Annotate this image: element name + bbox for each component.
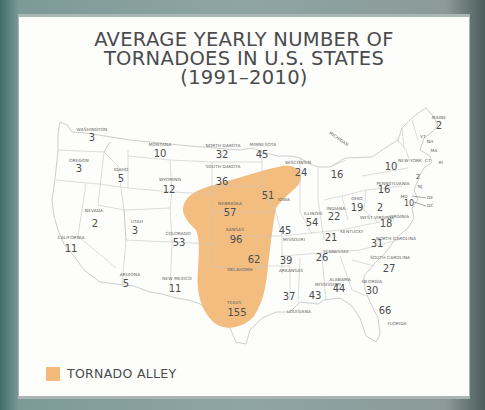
label-wyoming-value: 12 [163, 184, 176, 195]
label-missouri-value: 45 [279, 225, 292, 236]
label-north-carolina-name: NORTH CAROLINA [376, 236, 416, 241]
label-minnesota-name: MINNESOTA [250, 142, 276, 147]
label-wyoming-name: WYOMING [159, 177, 181, 182]
label-michigan-value: 16 [331, 169, 344, 180]
label-south-dakota-name: SOUTH DAKOTA [205, 164, 240, 169]
us-map: WASHINGTON 3 OREGON 3 IDAHO 5 MONTANA 10… [19, 17, 469, 396]
label-illinois-value: 54 [306, 217, 319, 228]
label-arizona-name: ARIZONA [120, 272, 140, 277]
label-montana-name: MONTANA [149, 142, 171, 147]
label-oregon-value: 3 [76, 163, 82, 174]
label-nevada-value: 2 [92, 218, 98, 229]
label-south-dakota-value: 36 [216, 176, 229, 187]
label-west-virginia-name: WEST VIRGINIA [360, 215, 394, 220]
label-new-jersey-value: 2 [416, 173, 420, 181]
label-indiana-value: 22 [328, 211, 341, 222]
label-missouri-name: MISSOURI [283, 237, 305, 242]
label-nebraska-value: 57 [224, 207, 237, 218]
label-iowa-name: IOWA [278, 197, 290, 202]
label-new-mexico-value: 11 [169, 283, 182, 294]
label-new-jersey-name: NJ [418, 184, 423, 189]
label-maine-value: 2 [436, 120, 442, 131]
label-utah-name: UTAH [131, 219, 143, 224]
label-florida-value: 66 [379, 305, 392, 316]
label-maryland-value: 10 [404, 199, 414, 208]
label-washington-value: 3 [89, 132, 95, 143]
label-louisiana-name: LOUISIANA [287, 309, 311, 314]
label-texas-name: TEXAS [226, 300, 242, 305]
label-michigan-name: MICHIGAN [328, 130, 350, 147]
label-kansas-name: KANSAS [226, 227, 244, 232]
label-colorado-name: COLORADO [165, 231, 191, 236]
label-louisiana-value: 37 [283, 291, 296, 302]
label-south-carolina-name: SOUTH CAROLINA [370, 255, 410, 260]
label-south-carolina-value: 27 [383, 263, 396, 274]
label-ohio-value: 19 [351, 202, 364, 213]
label-georgia-name: GEORGIA [362, 279, 383, 284]
map-card: AVERAGE YEARLY NUMBER OF TORNADOES IN U.… [19, 17, 469, 396]
label-oklahoma-value: 62 [248, 254, 261, 265]
label-idaho-name: IDAHO [114, 167, 129, 172]
label-minnesota-value: 45 [256, 149, 269, 160]
label-georgia-value: 30 [366, 285, 379, 296]
label-idaho-value: 5 [118, 173, 124, 184]
label-new-hampshire-name: NH [427, 139, 434, 144]
label-colorado-value: 53 [173, 237, 186, 248]
label-pennsylvania-value: 16 [378, 184, 391, 195]
label-alabama-value: 44 [333, 283, 346, 294]
label-massachusetts-name: MA [431, 148, 438, 153]
label-kentucky-name: KENTUCKY [340, 229, 364, 234]
label-california-name: CALIFORNIA [58, 235, 85, 240]
legend: TORNADO ALLEY [46, 366, 176, 381]
label-oklahoma-name: OKLAHOMA [227, 267, 253, 272]
label-rhode-island-name: RI [439, 160, 443, 165]
label-kansas-value: 96 [230, 234, 243, 245]
label-kentucky-value: 21 [325, 232, 338, 243]
label-montana-value: 10 [154, 148, 167, 159]
label-nebraska-name: NEBRASKA [218, 201, 242, 206]
label-new-mexico-name: NEW MEXICO [162, 276, 192, 281]
label-dc-name: DC [427, 203, 434, 208]
label-utah-value: 3 [132, 225, 138, 236]
label-arizona-value: 5 [123, 278, 129, 289]
label-north-dakota-name: NORTH DAKOTA [205, 143, 240, 148]
label-alabama-name: ALABAMA [329, 277, 351, 282]
tornado-alley-swatch [46, 367, 60, 381]
label-wisconsin-value: 24 [295, 167, 308, 178]
label-mississippi-value: 43 [309, 290, 322, 301]
label-nevada-name: NEVADA [85, 208, 103, 213]
label-california-value: 11 [65, 243, 78, 254]
label-connecticut-name: CT [425, 158, 431, 163]
legend-label: TORNADO ALLEY [67, 366, 176, 381]
label-new-york-value: 10 [385, 161, 398, 172]
label-north-dakota-value: 32 [216, 149, 229, 160]
label-wisconsin-name: WISCONSIN [285, 160, 311, 165]
label-arkansas-name: ARKANSAS [279, 268, 303, 273]
label-ohio-name: OHIO [351, 196, 363, 201]
label-new-york-name: NEW YORK [398, 158, 422, 163]
label-illinois-name: ILLINOIS [304, 211, 323, 216]
label-texas-value: 155 [227, 307, 246, 318]
label-iowa-value: 51 [262, 190, 275, 201]
label-tennessee-value: 26 [316, 252, 329, 263]
label-vermont-name: VT [420, 134, 426, 139]
label-florida-name: FLORIDA [387, 321, 406, 326]
label-arkansas-value: 39 [280, 255, 293, 266]
label-west-virginia-value: 2 [377, 202, 383, 213]
label-delaware-name: DE [427, 195, 433, 200]
